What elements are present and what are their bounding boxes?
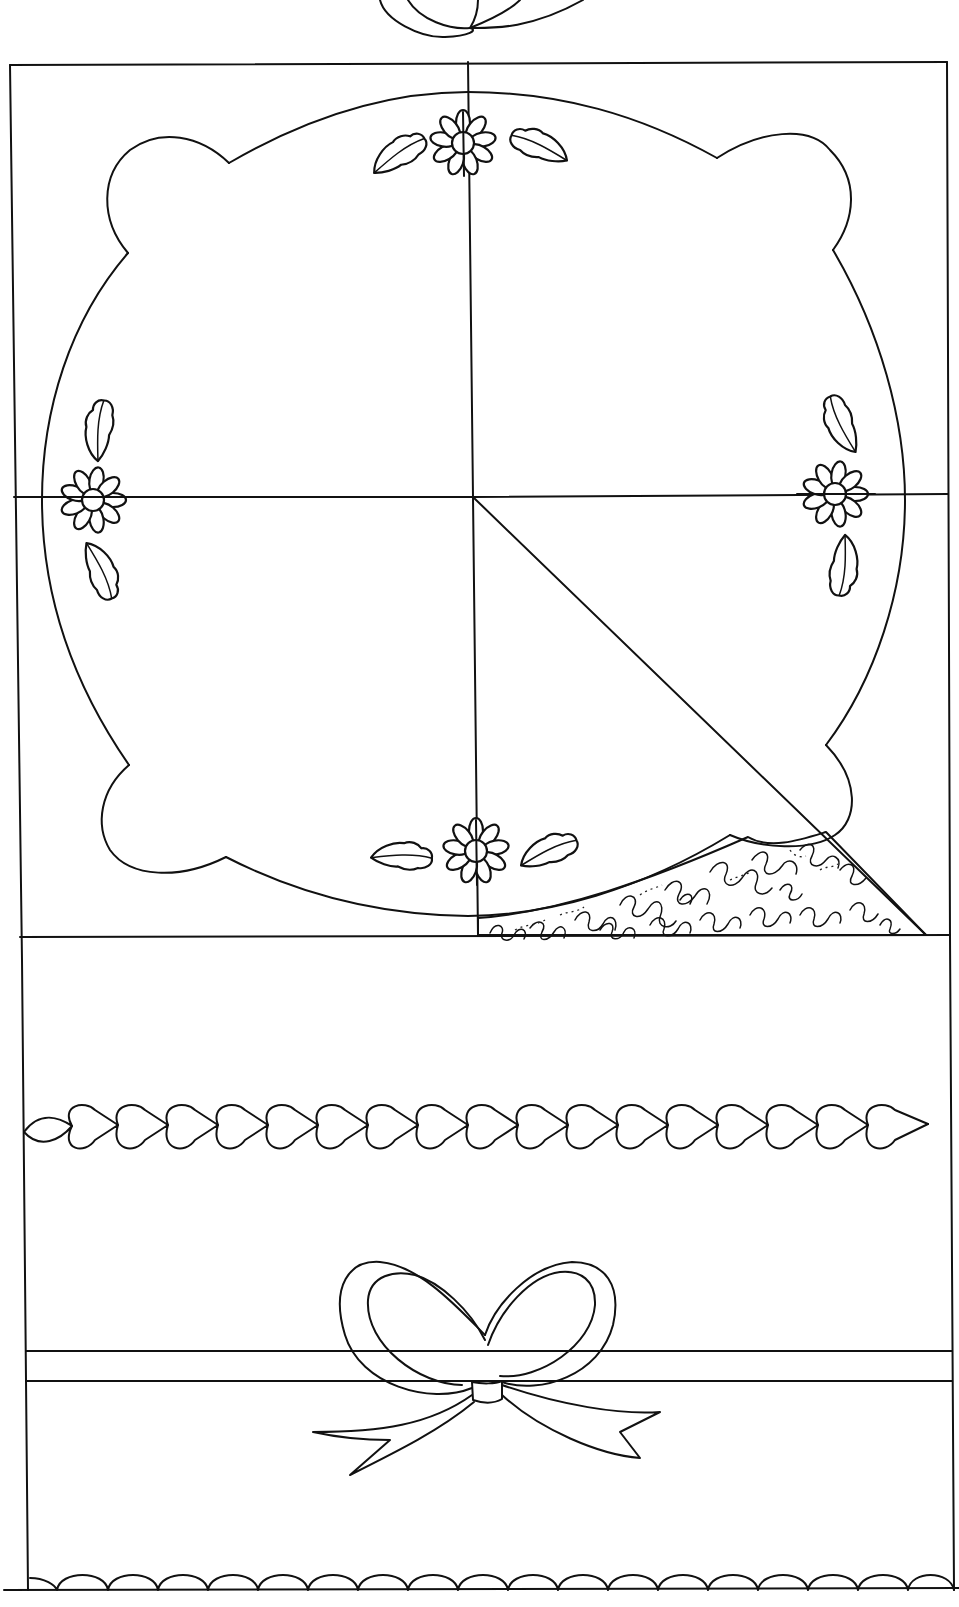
quilt-pattern-diagram: Quilt block pattern with scalloped medal… bbox=[0, 0, 959, 1607]
bow bbox=[313, 1262, 660, 1475]
hearts-border bbox=[24, 1105, 928, 1148]
top-bow-fragment bbox=[380, 0, 583, 37]
daisy-right bbox=[797, 392, 875, 599]
daisy-left bbox=[55, 397, 132, 603]
band-lines bbox=[26, 1351, 952, 1381]
daisy-top bbox=[365, 110, 573, 178]
daisy-bottom bbox=[370, 818, 581, 885]
